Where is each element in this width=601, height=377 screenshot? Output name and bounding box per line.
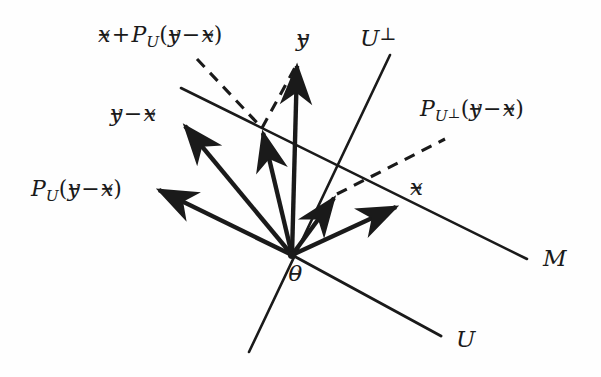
label-vec-x: x (410, 176, 423, 199)
label-vec-y-part: y (469, 98, 481, 120)
label-P-operator: P (131, 22, 146, 47)
label-vec-y-part: y (67, 178, 79, 200)
dash-foot-to-y (262, 64, 297, 128)
label-U-glyph: U (456, 326, 475, 352)
label-vec-x-part-2: x (201, 24, 213, 46)
label-vec-x-part: x (503, 98, 515, 120)
label-plus-operator: + (110, 22, 131, 47)
perp-icon: ⊥ (448, 105, 461, 121)
label-U-glyph: U (360, 25, 379, 51)
label-proj-u: PU(y−x) (31, 178, 122, 204)
dash-proj-perp (337, 139, 445, 194)
label-close-paren: ) (515, 96, 524, 121)
label-vec-x-part: x (101, 178, 113, 200)
label-x-plus-proj-u: x+PU(y−x) (98, 24, 222, 50)
construction-dashed-lines (197, 59, 445, 194)
line-U (292, 255, 441, 336)
label-minus-operator: − (80, 176, 101, 201)
label-M-glyph: M (543, 245, 567, 271)
label-vec-x-part: x (98, 24, 110, 46)
label-subscript-U: U (46, 187, 59, 205)
label-open-paren: ( (159, 22, 168, 47)
label-u: U (456, 328, 475, 351)
label-vec-y-part: y (110, 103, 122, 125)
label-m: M (543, 247, 567, 270)
label-y-minus-x: y−x (110, 103, 156, 125)
projection-diagram: x+PU(y−x) y−x PU(y−x) PU⊥(y−x) y x 0 U⊥ … (0, 0, 601, 377)
label-P-operator: P (420, 96, 435, 121)
label-open-paren: ( (461, 96, 470, 121)
label-vec-x-glyph: x (410, 176, 423, 199)
label-subscript-U: U (146, 33, 159, 51)
label-vec-zero-glyph: 0 (288, 262, 303, 285)
label-close-paren: ) (214, 22, 223, 47)
label-vec-y-part: y (168, 24, 180, 46)
vec-y-arrow (292, 66, 297, 255)
label-vec-y-glyph: y (296, 27, 309, 50)
perp-icon: ⊥ (379, 23, 396, 44)
label-vec-zero: 0 (288, 262, 303, 285)
label-u-perp: U⊥ (360, 25, 396, 50)
label-subscript-U: U (435, 107, 448, 125)
label-vec-y: y (296, 27, 309, 50)
line-U-perp (249, 55, 390, 352)
vec-proj-U-arrow (159, 190, 292, 255)
label-P-operator: P (31, 176, 46, 201)
label-proj-u-perp: PU⊥(y−x) (420, 98, 524, 124)
label-minus-operator: − (122, 101, 143, 126)
origin-point (288, 251, 296, 259)
label-close-paren: ) (113, 176, 122, 201)
label-minus-operator: − (180, 22, 201, 47)
label-minus-operator: − (482, 96, 503, 121)
label-vec-x-part: x (144, 103, 156, 125)
dash-x-to-foot (197, 59, 262, 128)
